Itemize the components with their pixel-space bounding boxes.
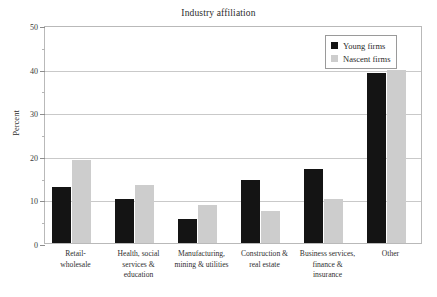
bar-group — [45, 27, 108, 243]
bar-young-firms — [178, 219, 197, 243]
bar-nascent-firms — [387, 70, 406, 243]
y-tick-label: 40 — [0, 66, 45, 75]
bar-young-firms — [241, 180, 260, 243]
x-category-label-line: finance & — [290, 260, 365, 271]
legend-label-young-firms: Young firms — [343, 41, 385, 51]
legend-label-nascent-firms: Nascent firms — [343, 54, 390, 64]
industry-affiliation-chart-figure: Industry affiliation Percent 01020304050… — [0, 0, 437, 297]
x-axis-category-labels: Retail-wholesaleHealth, socialservices &… — [44, 249, 422, 297]
x-category-label-line: Other — [353, 249, 428, 260]
y-tick-label: 10 — [0, 197, 45, 206]
bar-group — [171, 27, 234, 243]
bar-young-firms — [52, 187, 71, 243]
legend-item-young-firms: Young firms — [331, 39, 390, 52]
bar-young-firms — [367, 73, 386, 243]
chart-title: Industry affiliation — [0, 8, 437, 18]
x-category-label: Other — [353, 249, 428, 260]
bar-nascent-firms — [324, 199, 343, 243]
chart-legend: Young firms Nascent firms — [325, 35, 397, 69]
bar-nascent-firms — [135, 185, 154, 243]
gray-square-icon — [331, 55, 338, 62]
bar-nascent-firms — [198, 205, 217, 243]
y-tick-label: 50 — [0, 23, 45, 32]
x-category-label-line: education — [101, 270, 176, 281]
y-tick-mark — [40, 245, 45, 246]
black-square-icon — [331, 42, 338, 49]
bar-nascent-firms — [72, 160, 91, 243]
y-tick-label: 20 — [0, 153, 45, 162]
bar-group — [234, 27, 297, 243]
bar-group — [108, 27, 171, 243]
y-axis-label: Percent — [11, 83, 21, 163]
bar-young-firms — [304, 169, 323, 243]
bar-young-firms — [115, 199, 134, 243]
x-category-label-line: insurance — [290, 270, 365, 281]
legend-item-nascent-firms: Nascent firms — [331, 52, 390, 65]
bar-nascent-firms — [261, 211, 280, 243]
y-tick-label: 30 — [0, 110, 45, 119]
